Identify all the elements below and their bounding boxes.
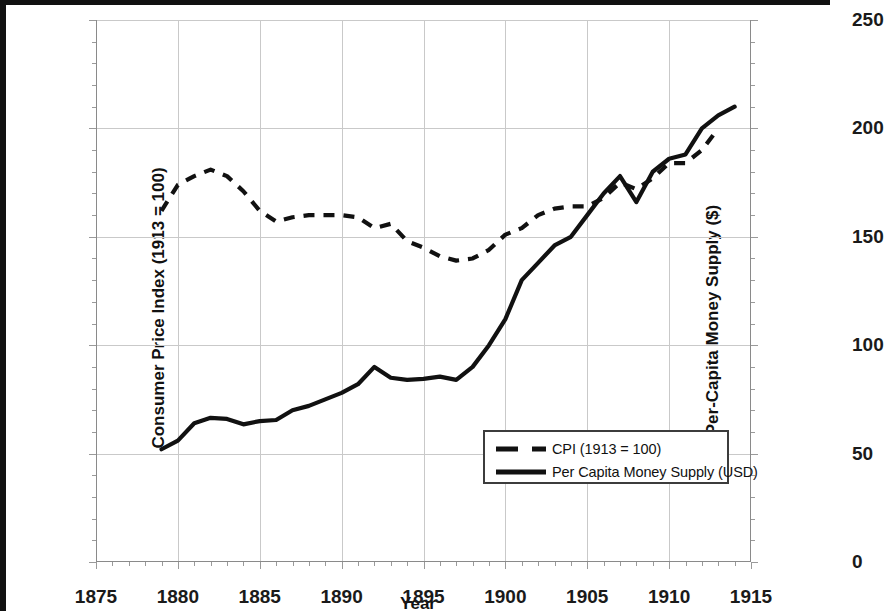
y-axis-left-tick <box>89 345 96 346</box>
x-axis-tick-label: 1875 <box>56 586 136 608</box>
x-axis-tick-label: 1880 <box>138 586 218 608</box>
x-axis-minor-tick <box>522 562 523 566</box>
x-axis-tick <box>178 562 179 569</box>
y-axis-right-tick-label: 100 <box>852 334 888 356</box>
y-axis-right-minor-tick <box>751 540 755 541</box>
y-axis-right-tick-label: 50 <box>852 443 888 465</box>
legend-swatch-dashed-icon <box>492 442 550 456</box>
x-axis-minor-tick <box>358 562 359 566</box>
x-axis-minor-tick <box>145 562 146 566</box>
x-axis-minor-tick <box>735 562 736 566</box>
x-axis-minor-tick <box>489 562 490 566</box>
y-axis-right-minor-tick <box>751 63 755 64</box>
x-axis-minor-tick <box>440 562 441 566</box>
y-axis-right-minor-tick <box>751 302 755 303</box>
x-axis-tick-label: 1885 <box>220 586 300 608</box>
y-axis-right-minor-tick <box>751 193 755 194</box>
y-axis-right-tick <box>751 128 758 129</box>
x-axis-minor-tick <box>456 562 457 566</box>
x-axis-minor-tick <box>325 562 326 566</box>
y-axis-right-minor-tick <box>751 432 755 433</box>
x-axis-minor-tick <box>391 562 392 566</box>
x-axis-minor-tick <box>718 562 719 566</box>
y-axis-right-minor-tick <box>751 258 755 259</box>
x-axis-tick <box>669 562 670 569</box>
series-line-cpi <box>162 128 719 260</box>
chart-legend[interactable]: CPI (1913 = 100) Per Capita Money Supply… <box>483 430 729 484</box>
x-axis-tick <box>260 562 261 569</box>
legend-label-cpi: CPI (1913 = 100) <box>552 441 661 457</box>
y-axis-right-tick <box>751 345 758 346</box>
y-axis-left-tick <box>89 237 96 238</box>
y-axis-left-tick <box>89 562 96 563</box>
x-axis-minor-tick <box>243 562 244 566</box>
y-axis-right-minor-tick <box>751 42 755 43</box>
y-axis-right-tick <box>751 454 758 455</box>
x-axis-minor-tick <box>686 562 687 566</box>
x-axis-minor-tick <box>555 562 556 566</box>
x-axis-tick <box>424 562 425 569</box>
x-axis-minor-tick <box>309 562 310 566</box>
x-axis-minor-tick <box>162 562 163 566</box>
x-axis-minor-tick <box>374 562 375 566</box>
x-axis-minor-tick <box>276 562 277 566</box>
y-axis-right-minor-tick <box>751 367 755 368</box>
y-axis-right-tick-label: 150 <box>852 226 888 248</box>
y-axis-right-minor-tick <box>751 497 755 498</box>
y-axis-right-tick-label: 200 <box>852 117 888 139</box>
y-axis-right-minor-tick <box>751 324 755 325</box>
x-axis-minor-tick <box>604 562 605 566</box>
x-axis-minor-tick <box>211 562 212 566</box>
x-axis-minor-tick <box>194 562 195 566</box>
x-axis-tick-label: 1890 <box>302 586 382 608</box>
x-axis-minor-tick <box>129 562 130 566</box>
y-axis-right-tick-label: 0 <box>852 551 888 573</box>
y-axis-right-minor-tick <box>751 389 755 390</box>
y-axis-left-tick <box>89 128 96 129</box>
legend-item-money-supply[interactable]: Per Capita Money Supply (USD) <box>492 460 720 483</box>
y-axis-right-minor-tick <box>751 410 755 411</box>
x-axis-minor-tick <box>636 562 637 566</box>
y-axis-right-tick <box>751 562 758 563</box>
series-line-money-supply <box>162 107 735 450</box>
legend-item-cpi[interactable]: CPI (1913 = 100) <box>492 437 720 460</box>
y-axis-right-minor-tick <box>751 280 755 281</box>
y-axis-right-minor-tick <box>751 85 755 86</box>
y-axis-right-minor-tick <box>751 215 755 216</box>
y-axis-right-minor-tick <box>751 150 755 151</box>
y-axis-right-minor-tick <box>751 172 755 173</box>
x-axis-tick-label: 1915 <box>711 586 791 608</box>
x-axis-minor-tick <box>620 562 621 566</box>
y-axis-right-minor-tick <box>751 107 755 108</box>
x-axis-tick-label: 1905 <box>547 586 627 608</box>
x-axis-minor-tick <box>407 562 408 566</box>
legend-swatch-solid-icon <box>492 465 550 479</box>
x-axis-tick-label: 1900 <box>465 586 545 608</box>
x-axis-tick <box>96 562 97 569</box>
x-axis-tick <box>587 562 588 569</box>
y-axis-right-tick-label: 250 <box>852 9 888 31</box>
x-axis-minor-tick <box>538 562 539 566</box>
x-axis-minor-tick <box>653 562 654 566</box>
x-axis-tick <box>342 562 343 569</box>
y-axis-right-tick <box>751 237 758 238</box>
legend-label-money-supply: Per Capita Money Supply (USD) <box>552 464 758 480</box>
x-axis-minor-tick <box>571 562 572 566</box>
y-axis-left-tick <box>89 454 96 455</box>
x-axis-tick <box>751 562 752 569</box>
x-axis-minor-tick <box>473 562 474 566</box>
x-axis-minor-tick <box>227 562 228 566</box>
y-axis-right-tick <box>751 20 758 21</box>
x-axis-tick <box>505 562 506 569</box>
x-axis-minor-tick <box>702 562 703 566</box>
y-axis-right-minor-tick <box>751 519 755 520</box>
x-axis-tick-label: 1895 <box>384 586 464 608</box>
x-axis-minor-tick <box>112 562 113 566</box>
x-axis-tick-label: 1910 <box>629 586 709 608</box>
y-axis-left-tick <box>89 20 96 21</box>
x-axis-minor-tick <box>293 562 294 566</box>
